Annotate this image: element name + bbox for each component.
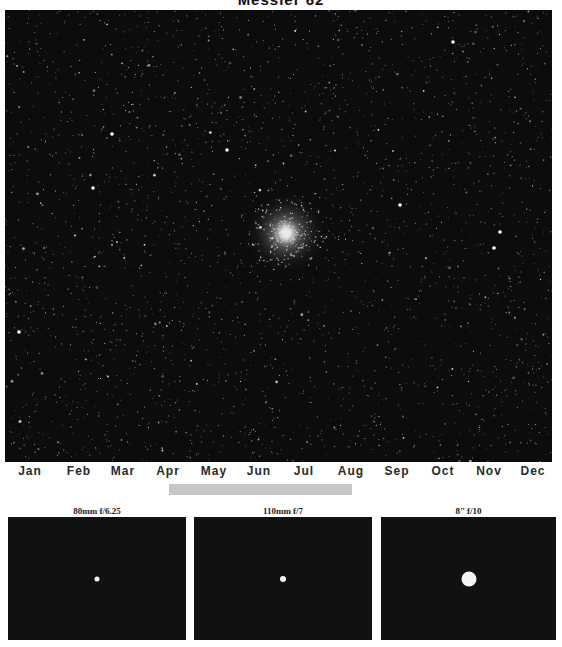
page-title: Messier 62	[0, 0, 562, 8]
month-axis: JanFebMarAprMayJunJulAugSepOctNovDec	[0, 464, 562, 482]
month-label-dec: Dec	[520, 464, 545, 478]
telescope-label: 8" f/10	[381, 506, 556, 516]
month-label-aug: Aug	[338, 464, 364, 478]
month-label-jul: Jul	[294, 464, 314, 478]
eyepiece-view-frame	[8, 517, 186, 640]
month-label-feb: Feb	[67, 464, 91, 478]
month-label-mar: Mar	[111, 464, 135, 478]
telescope-label: 110mm f/7	[194, 506, 372, 516]
visibility-bar	[169, 484, 352, 495]
month-label-nov: Nov	[476, 464, 502, 478]
eyepiece-view-frame	[381, 517, 556, 640]
telescope-view-0: 80mm f/6.25	[8, 506, 186, 647]
cluster-dot-icon	[461, 571, 476, 586]
month-label-may: May	[201, 464, 227, 478]
month-label-jun: Jun	[247, 464, 271, 478]
telescope-view-1: 110mm f/7	[194, 506, 372, 647]
starfield-stars	[5, 10, 552, 462]
month-label-apr: Apr	[156, 464, 180, 478]
month-label-sep: Sep	[384, 464, 409, 478]
eyepiece-view-frame	[194, 517, 372, 640]
telescope-label: 80mm f/6.25	[8, 506, 186, 516]
starfield-image	[5, 10, 552, 462]
telescope-view-2: 8" f/10	[381, 506, 556, 647]
telescope-views: 80mm f/6.25110mm f/78" f/10	[0, 506, 562, 647]
month-label-jan: Jan	[18, 464, 42, 478]
cluster-dot-icon	[280, 576, 286, 582]
cluster-dot-icon	[95, 576, 100, 581]
month-label-oct: Oct	[431, 464, 454, 478]
